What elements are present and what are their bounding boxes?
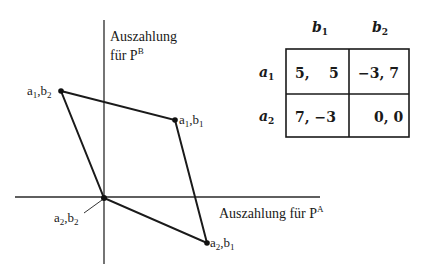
x-axis-label: Auszahlung für PA [219,205,324,221]
matrix-cell-a1-b2: −3, 7 [358,66,399,80]
point-a1b1 [172,117,178,123]
y-axis-label-line2: für PB [110,47,177,63]
matrix-cell-a2-b2: 0, 0 [374,110,403,124]
matrix-col-header-b2: b2 [372,20,388,37]
label-a1b2: a1,b2 [27,84,52,100]
label-a2b1: a2,b1 [210,236,235,252]
point-a2b2 [101,195,107,201]
matrix-cell-a2-b1: 7, −3 [295,110,336,124]
matrix-cell-a1-b1: 5, 5 [295,66,339,80]
y-axis-label: Auszahlung für PB [110,30,177,63]
leader-line-a2b2 [84,200,102,213]
label-a2b2: a2,b2 [54,211,79,227]
y-axis-label-line1: Auszahlung [110,30,177,44]
point-a1b2 [58,88,64,94]
label-a1b1: a1,b1 [179,113,204,129]
payoff-diagram: Auszahlung für PB Auszahlung für PA a1,b… [0,0,428,275]
matrix-row-header-a1: a1 [259,65,274,82]
matrix-col-header-b1: b1 [312,20,328,37]
payoff-plot [0,0,428,275]
matrix-row-header-a2: a2 [259,109,274,126]
point-a2b1 [204,240,210,246]
